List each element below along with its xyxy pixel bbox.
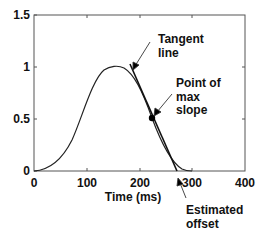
estimated-offset-label: offset: [186, 217, 219, 231]
max-slope-label: Point of: [176, 76, 222, 90]
max-slope-label: slope: [176, 103, 208, 117]
x-tick-label: 400: [235, 176, 255, 190]
y-axis: 0 0.5 1 1.5: [13, 8, 245, 178]
signal-curve: [34, 66, 192, 171]
y-tick-label: 0.5: [13, 112, 30, 126]
max-slope-label: max: [176, 90, 200, 104]
annotation-arrows: [133, 42, 186, 198]
chart: 0 0.5 1 1.5 0 100 200 300 400 Time (ms) …: [0, 0, 264, 239]
x-tick-label: 100: [77, 176, 97, 190]
plot-frame: [34, 15, 245, 171]
x-tick-label: 200: [130, 176, 150, 190]
x-tick-label: 0: [31, 176, 38, 190]
x-axis-label: Time (ms): [105, 190, 161, 204]
tangent-line-label: Tangent: [158, 32, 204, 46]
x-tick-label: 300: [182, 176, 202, 190]
y-tick-label: 0: [23, 164, 30, 178]
y-tick-label: 1.5: [13, 8, 30, 22]
tangent-line-label: line: [158, 46, 179, 60]
x-axis: 0 100 200 300 400 Time (ms): [31, 15, 256, 204]
estimated-offset-label: Estimated: [186, 203, 243, 217]
y-tick-label: 1: [23, 60, 30, 74]
